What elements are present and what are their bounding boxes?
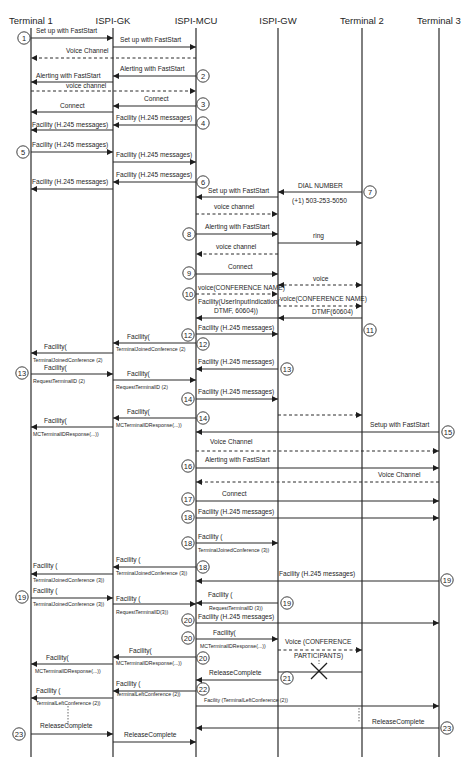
message-label: Set up with FastStart: [36, 27, 97, 35]
message-label: ReleaseComplete: [40, 722, 93, 730]
step-marker: 20: [182, 614, 194, 626]
step-number: 10: [185, 290, 193, 299]
message-label: Alerting with FastStart: [120, 65, 185, 73]
message-label: Facility (: [208, 591, 233, 599]
step-number: 4: [201, 119, 205, 128]
participant-label: ISPI-GK: [96, 15, 132, 26]
message-label: Facility (: [116, 595, 141, 603]
step-number: 14: [184, 395, 192, 404]
messages: Set up with FastStartSet up with FastSta…: [31, 27, 439, 742]
message-sublabel: TerminalJoinedConference (2): [33, 357, 103, 363]
message-label: Facility(UserInputIndication(: [198, 298, 281, 306]
message-label: Facility (H.245 messages): [198, 388, 274, 396]
step-marker: 20: [182, 632, 194, 644]
step-marker: 14: [197, 412, 209, 424]
message-label: Facility (H.245 messages): [32, 121, 108, 129]
message-label: Connect: [222, 490, 247, 497]
step-number: 12: [184, 331, 192, 340]
step-marker: 8: [183, 228, 195, 240]
message-label: Facility (H.245 messages): [32, 178, 108, 186]
step-number: 14: [199, 414, 207, 423]
step-marker: 9: [183, 267, 195, 279]
message-label: Facility (: [36, 687, 61, 695]
message-label: Facility(: [213, 629, 237, 637]
step-marker: 15: [442, 426, 454, 438]
step-number: 18: [184, 539, 192, 548]
step-number: 20: [184, 634, 192, 643]
message-label: Facility(: [127, 333, 151, 341]
step-number: 18: [199, 563, 207, 572]
message-label: Facility(: [127, 408, 151, 416]
message-label: voice channel: [216, 243, 257, 250]
step-number: 16: [184, 462, 192, 471]
step-number: 6: [201, 178, 205, 187]
step-marker: 6: [197, 176, 209, 188]
message-label: Facility(: [44, 364, 68, 372]
step-marker: 10: [183, 288, 195, 300]
step-marker: 2: [197, 70, 209, 82]
step-number: 19: [443, 576, 451, 585]
message-label: Set up with FastStart: [120, 36, 181, 44]
message-label: Facility(: [129, 647, 153, 655]
step-marker: 11: [364, 324, 376, 336]
message-label: voice: [313, 275, 329, 282]
participant-label: ISPI-MCU: [175, 15, 218, 26]
message-label: Facility (H.245 messages): [116, 171, 192, 179]
message-label: voice(CONFERENCE NAME): [198, 284, 285, 292]
message-label: voice channel: [66, 82, 107, 89]
participant-headers: Terminal 1ISPI-GKISPI-MCUISPI-GWTerminal…: [9, 15, 461, 26]
step-number: 13: [18, 369, 26, 378]
participant-label: Terminal 3: [417, 15, 461, 26]
step-number: 15: [444, 428, 452, 437]
step-number: 20: [184, 616, 192, 625]
step-marker: 23: [13, 728, 25, 740]
step-number: 2: [201, 72, 205, 81]
message-label: DIAL NUMBER: [298, 182, 343, 189]
message-label: Facility (H.245 messages): [198, 324, 274, 332]
message-label: Facility (H.245 messages): [198, 613, 274, 621]
message-sublabel: MCTerminalIDResponse(...)): [116, 660, 182, 666]
message-label: Facility (H.245 messages): [116, 114, 192, 122]
message-label-line2: (+1) 503-253-5050: [292, 197, 347, 205]
message-label: Connect: [228, 263, 253, 270]
message-label: Facility (: [116, 680, 141, 688]
message-label: Facility (H.245 messages): [116, 151, 192, 159]
step-number: 5: [21, 148, 25, 157]
step-number: 20: [199, 654, 207, 663]
sequence-diagram: Terminal 1ISPI-GKISPI-MCUISPI-GWTerminal…: [0, 0, 466, 767]
message-label: Facility (H.245 messages): [198, 358, 274, 366]
step-marker: 7: [364, 186, 376, 198]
step-marker: 17: [182, 493, 194, 505]
step-number: 13: [283, 365, 291, 374]
step-marker: 3: [197, 98, 209, 110]
step-marker: 18: [197, 561, 209, 573]
participant-label: Terminal 1: [9, 15, 53, 26]
step-marker: 5: [17, 146, 29, 158]
message-sublabel: RequestTerminalID (2): [116, 384, 168, 390]
message-label: voice channel: [214, 203, 255, 210]
step-marker: 22: [197, 683, 209, 695]
step-number: 3: [201, 100, 205, 109]
step-marker: 4: [197, 117, 209, 129]
message-sublabel: MCTerminalIDResponse(...)): [33, 431, 99, 437]
message-label: Facility(: [46, 654, 70, 662]
message-label: Facility (H.245 messages): [279, 570, 355, 578]
step-marker: 14: [182, 393, 194, 405]
step-number: 12: [199, 340, 207, 349]
message-label: Facility (H.245 messages): [32, 141, 108, 149]
step-marker: 12: [182, 329, 194, 341]
step-number: 19: [18, 593, 26, 602]
participant-label: ISPI-GW: [259, 15, 297, 26]
message-label: Voice Channel: [66, 47, 109, 54]
message-label: ReleaseComplete: [124, 731, 177, 739]
message-label: Connect: [144, 95, 169, 102]
message-sublabel: RequestTerminalID(3)): [116, 609, 168, 615]
step-number: 18: [184, 513, 192, 522]
step-marker: 23: [441, 722, 453, 734]
step-marker: 18: [182, 511, 194, 523]
message-sublabel: RequestTerminalID (3)): [209, 605, 263, 611]
step-number: 7: [368, 188, 372, 197]
message-label-line2: PARTICIPANTS): [294, 652, 343, 660]
step-marker: 19: [281, 597, 293, 609]
step-number: 23: [15, 730, 23, 739]
